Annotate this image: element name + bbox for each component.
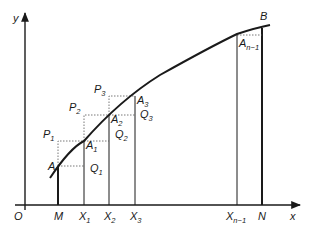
point-label-Q2: Q2 [115,128,129,143]
point-label-A: A [47,160,55,172]
tick-label-Xn-1: Xn−1 [225,210,246,225]
point-label-Q1: Q1 [90,162,103,177]
point-label-A3: A3 [136,94,149,109]
point-label-P3: P3 [94,83,106,98]
origin-label: O [14,210,23,222]
tick-label-M: M [54,210,64,222]
tick-label-X3: X3 [129,210,142,225]
x-axis-label: x [289,210,296,222]
point-label-B: B [260,10,267,22]
tick-label-X2: X2 [103,210,116,225]
point-label-An-1: An−1 [238,37,259,52]
y-axis-label: y [12,12,20,24]
tick-label-N: N [258,210,266,222]
point-label-A1: A1 [85,139,98,154]
point-label-P1: P1 [43,128,55,143]
area-under-curve-diagram: y x O M X1 X2 X3 Xn−1 N A A1 A2 A3 An−1 … [0,0,312,232]
point-label-P2: P2 [69,101,81,116]
tick-label-X1: X1 [78,210,91,225]
point-label-Q3: Q3 [140,108,154,123]
